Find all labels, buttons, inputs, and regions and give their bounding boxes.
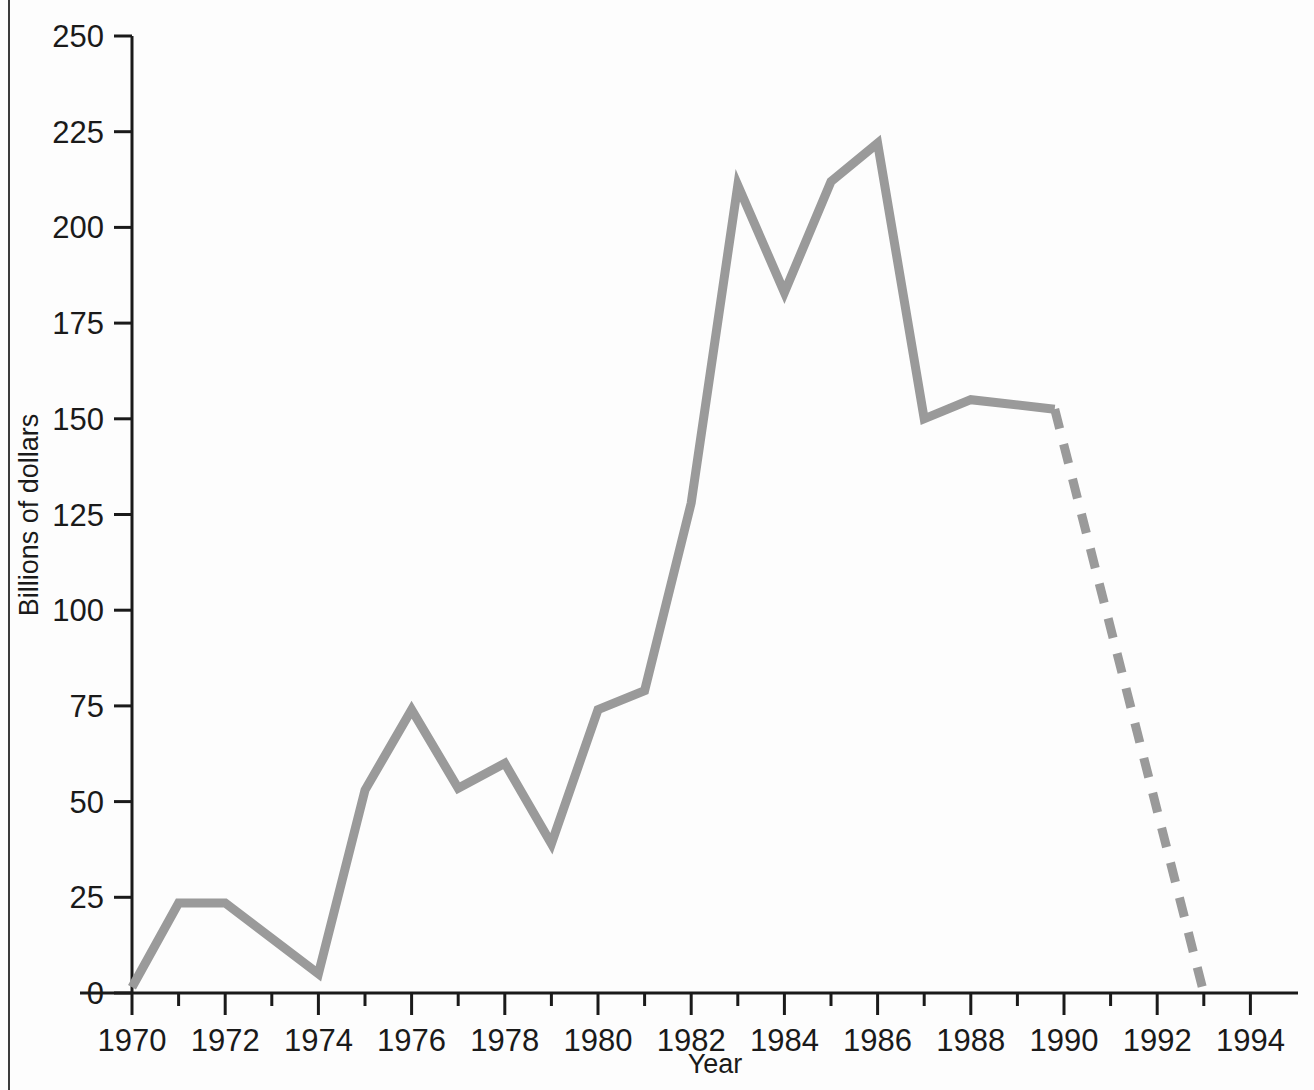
y-tick-label: 75 xyxy=(70,689,104,724)
chart-svg: 0255075100125150175200225250 19701972197… xyxy=(0,0,1314,1090)
x-tick-label: 1972 xyxy=(191,1023,260,1058)
x-tick-label: 1994 xyxy=(1216,1023,1285,1058)
x-tick-label: 1986 xyxy=(843,1023,912,1058)
x-tick-label: 1978 xyxy=(470,1023,539,1058)
y-tick-label: 50 xyxy=(70,785,104,820)
x-tick-label: 1974 xyxy=(284,1023,353,1058)
y-tick-label: 150 xyxy=(52,402,104,437)
y-tick-label: 250 xyxy=(52,19,104,54)
line-chart: 0255075100125150175200225250 19701972197… xyxy=(0,0,1314,1090)
x-tick-label: 1984 xyxy=(750,1023,819,1058)
x-axis-title: Year xyxy=(688,1049,743,1079)
x-tick-label: 1990 xyxy=(1030,1023,1099,1058)
x-tick-label: 1976 xyxy=(377,1023,446,1058)
series-line-actual xyxy=(132,143,1055,987)
y-tick-label: 125 xyxy=(52,498,104,533)
y-tick-label: 25 xyxy=(70,880,104,915)
x-tick-label: 1988 xyxy=(936,1023,1005,1058)
page-canvas: 0255075100125150175200225250 19701972197… xyxy=(0,0,1314,1090)
y-tick-label: 225 xyxy=(52,115,104,150)
y-axis-tick-labels: 0255075100125150175200225250 xyxy=(52,19,104,1011)
y-tick-label: 200 xyxy=(52,210,104,245)
series-line-projected xyxy=(1055,409,1204,993)
y-tick-label: 175 xyxy=(52,306,104,341)
x-axis-ticks xyxy=(132,993,1250,1015)
y-axis-title: Billions of dollars xyxy=(14,414,44,617)
y-tick-label: 100 xyxy=(52,593,104,628)
x-tick-label: 1970 xyxy=(98,1023,167,1058)
x-tick-label: 1980 xyxy=(564,1023,633,1058)
x-tick-label: 1992 xyxy=(1123,1023,1192,1058)
y-axis-ticks xyxy=(114,36,132,993)
